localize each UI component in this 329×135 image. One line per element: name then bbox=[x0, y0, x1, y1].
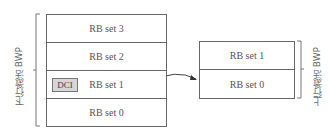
downlink-rb-set-2: RB set 2 bbox=[47, 43, 166, 71]
downlink-bwp-label: 下行激活 BWP bbox=[12, 34, 25, 106]
uplink-rb-set-1: RB set 1 bbox=[200, 42, 294, 70]
downlink-rb-set-3: RB set 3 bbox=[47, 15, 166, 43]
downlink-rb-set-0: RB set 0 bbox=[47, 99, 166, 126]
uplink-rb-set-0: RB set 0 bbox=[200, 70, 294, 98]
uplink-bwp-box: RB set 1 RB set 0 bbox=[199, 41, 295, 99]
dci-box: DCI bbox=[52, 78, 78, 92]
downlink-bracket bbox=[36, 14, 40, 126]
arrow-head-icon bbox=[190, 75, 197, 80]
downlink-bwp-box: RB set 3 RB set 2 DCI RB set 1 RB set 0 bbox=[46, 14, 167, 127]
uplink-bracket bbox=[297, 41, 301, 98]
downlink-rb-set-1: DCI RB set 1 bbox=[47, 71, 166, 99]
uplink-bwp-label: 上行激活 BWP bbox=[310, 34, 323, 106]
